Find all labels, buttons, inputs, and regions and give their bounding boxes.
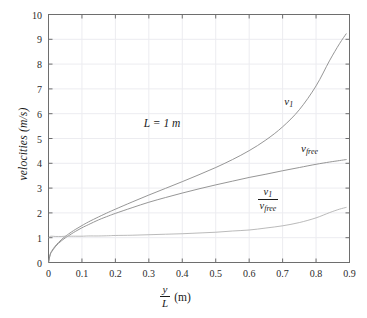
curve-label-v1: v1 bbox=[284, 95, 293, 109]
ratio-numerator: v1 bbox=[262, 187, 275, 199]
y-tick-label: 9 bbox=[22, 34, 42, 45]
annotation-L: L = 1 m bbox=[144, 117, 181, 129]
ratio-denominator-subscript: free bbox=[264, 204, 276, 213]
ratio-fraction: v1 vfree bbox=[258, 187, 279, 214]
x-tick-label: 0.1 bbox=[76, 268, 89, 279]
y-tick-label: 3 bbox=[22, 183, 42, 194]
grid-lines bbox=[49, 15, 350, 263]
y-tick-label: 7 bbox=[22, 83, 42, 94]
curve-label-v1-subscript: 1 bbox=[289, 99, 293, 108]
x-tick-label: 0.2 bbox=[109, 268, 122, 279]
x-tick-label: 0.5 bbox=[209, 268, 222, 279]
y-tick-label: 8 bbox=[22, 59, 42, 70]
y-tick-label: 6 bbox=[22, 108, 42, 119]
x-tick-label: 0.3 bbox=[143, 268, 156, 279]
x-axis-denominator: L bbox=[160, 298, 170, 309]
x-tick-label: 0.6 bbox=[243, 268, 256, 279]
x-tick-label: 0.8 bbox=[310, 268, 323, 279]
curve-label-ratio: v1 vfree bbox=[258, 187, 279, 214]
x-axis-fraction: y L bbox=[160, 284, 170, 309]
curve-label-vfree: vfree bbox=[301, 142, 318, 156]
ratio-numerator-subscript: 1 bbox=[268, 189, 272, 198]
velocities-chart: velocities (m/s) y L (m) L = 1 m v1 vfre… bbox=[0, 0, 367, 318]
x-axis-unit: (m) bbox=[174, 291, 191, 303]
y-tick-label: 0 bbox=[22, 257, 42, 268]
x-axis-numerator: y bbox=[161, 284, 170, 295]
y-tick-label: 5 bbox=[22, 133, 42, 144]
y-tick-label: 10 bbox=[22, 9, 42, 20]
x-tick-label: 0.4 bbox=[176, 268, 189, 279]
x-axis-label: y L (m) bbox=[160, 284, 191, 309]
y-tick-label: 2 bbox=[22, 207, 42, 218]
y-tick-label: 1 bbox=[22, 232, 42, 243]
x-tick-label: 0.9 bbox=[343, 268, 356, 279]
x-tick-label: 0 bbox=[46, 268, 51, 279]
curve-label-vfree-subscript: free bbox=[306, 147, 318, 156]
y-tick-label: 4 bbox=[22, 158, 42, 169]
ratio-denominator: vfree bbox=[258, 201, 279, 213]
x-tick-label: 0.7 bbox=[276, 268, 289, 279]
